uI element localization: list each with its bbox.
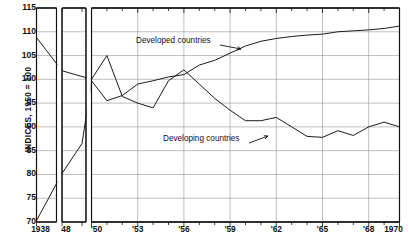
series-line-developing — [62, 71, 82, 77]
chart-figure: INDICES, 1950 = 100 70758085909510010511… — [0, 0, 409, 246]
series-line-developed — [62, 144, 82, 174]
axis-break-gap — [87, 2, 91, 230]
annotation-arrow-developing — [249, 136, 268, 143]
annotation-developed-countries: Developed countries — [136, 36, 211, 45]
axis-break-gap — [57, 2, 61, 230]
annotation-developing-countries: Developing countries — [163, 134, 239, 143]
